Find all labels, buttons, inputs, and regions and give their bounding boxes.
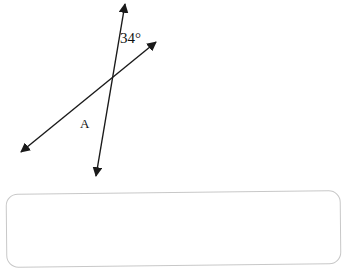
angle-label: 34° (120, 30, 141, 47)
intersecting-lines-diagram (0, 0, 345, 190)
answer-input-box[interactable] (6, 190, 342, 268)
line-shallow (21, 42, 156, 152)
point-label-a: A (80, 116, 89, 132)
